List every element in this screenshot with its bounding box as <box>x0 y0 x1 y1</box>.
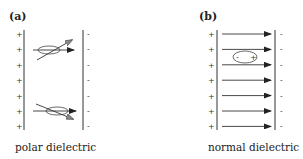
panel-a-caption: polar dielectric <box>15 141 96 153</box>
panel-a: (a) +++++++ ------- polar dielectric <box>9 10 96 153</box>
positive-charge: + <box>16 107 23 116</box>
panel-a-positive-charges: +++++++ <box>16 30 23 131</box>
panel-b-dipole: - + <box>233 51 257 63</box>
positive-charge: + <box>208 30 215 39</box>
panel-b-field-lines <box>222 34 271 126</box>
panel-b-caption: normal dielectric <box>208 141 299 153</box>
positive-charge: + <box>208 45 215 54</box>
negative-charge: - <box>87 76 90 85</box>
positive-charge: + <box>208 107 215 116</box>
panel-b-negative-charges: ------- <box>280 30 283 131</box>
positive-charge: + <box>16 122 23 131</box>
positive-charge: + <box>16 61 23 70</box>
panel-a-negative-charges: ------- <box>87 30 90 131</box>
negative-charge: - <box>280 92 283 101</box>
panel-a-molecule-top <box>33 40 74 60</box>
dipole-arrow <box>36 104 73 119</box>
negative-charge: - <box>87 30 90 39</box>
positive-charge: + <box>208 76 215 85</box>
dielectric-diagram: (a) +++++++ ------- polar dielectric (b)… <box>0 0 303 159</box>
dipole-negative: - <box>236 53 239 62</box>
positive-charge: + <box>208 61 215 70</box>
negative-charge: - <box>280 122 283 131</box>
panel-b: (b) +++++++ ------- - + normal dielectri… <box>199 10 299 153</box>
negative-charge: - <box>280 30 283 39</box>
positive-charge: + <box>16 30 23 39</box>
negative-charge: - <box>87 61 90 70</box>
dipole-positive: + <box>250 53 257 62</box>
positive-charge: + <box>16 92 23 101</box>
positive-charge: + <box>16 45 23 54</box>
panel-b-positive-charges: +++++++ <box>208 30 215 131</box>
negative-charge: - <box>280 45 283 54</box>
panel-a-label: (a) <box>9 10 27 23</box>
negative-charge: - <box>280 107 283 116</box>
panel-b-label: (b) <box>199 10 217 23</box>
negative-charge: - <box>280 61 283 70</box>
negative-charge: - <box>87 107 90 116</box>
negative-charge: - <box>87 92 90 101</box>
positive-charge: + <box>208 122 215 131</box>
panel-a-molecule-bottom <box>33 104 76 119</box>
positive-charge: + <box>16 76 23 85</box>
negative-charge: - <box>280 76 283 85</box>
negative-charge: - <box>87 122 90 131</box>
positive-charge: + <box>208 92 215 101</box>
negative-charge: - <box>87 45 90 54</box>
